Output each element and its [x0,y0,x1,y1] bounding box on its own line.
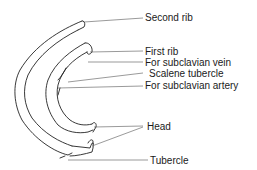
label-tubercle: Tubercle [150,155,189,166]
label-first-rib: First rib [145,46,178,57]
label-second-rib: Second rib [145,12,193,23]
label-scalene-tubercle: Scalene tubercle [149,68,224,79]
label-head: Head [147,121,171,132]
label-subclavian-artery: For subclavian artery [145,80,238,91]
label-subclavian-vein: For subclavian vein [145,57,231,68]
